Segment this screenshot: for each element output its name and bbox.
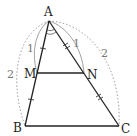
label-N: N xyxy=(87,68,98,82)
angle-mark-A-outer xyxy=(46,32,56,34)
length-label-AB: 2 xyxy=(7,68,14,81)
label-M: M xyxy=(24,67,36,81)
length-label-AC: 2 xyxy=(101,47,108,60)
length-label-AN: 1 xyxy=(73,37,80,50)
tick-MB xyxy=(28,99,34,100)
label-B: B xyxy=(13,121,22,135)
triangle-diagram: A B C M N 1 2 1 2 xyxy=(0,0,137,136)
label-C: C xyxy=(121,122,130,136)
label-A: A xyxy=(43,5,53,19)
tick-AM xyxy=(40,48,46,49)
length-label-AM: 1 xyxy=(27,42,34,55)
